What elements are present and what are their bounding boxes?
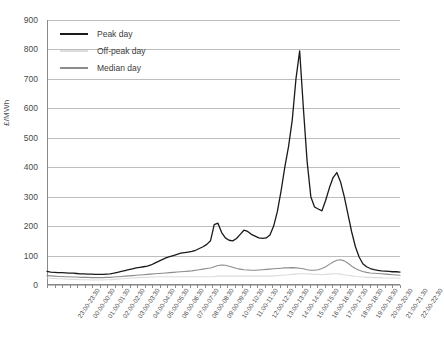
legend-label: Off-peak day xyxy=(97,46,146,56)
y-tick-700: 700 xyxy=(4,75,38,84)
y-tick-900: 900 xyxy=(4,16,38,25)
y-tick-400: 400 xyxy=(4,163,38,172)
legend-swatch-icon xyxy=(60,33,88,35)
x-axis-tick-labels: 23:00-23:3000:00-00:3001:00-01:3002:00-0… xyxy=(47,287,400,343)
legend-item-median-day[interactable]: Median day xyxy=(60,59,146,76)
legend-swatch-icon xyxy=(60,50,88,52)
y-tick-300: 300 xyxy=(4,193,38,202)
legend-swatch-icon xyxy=(60,67,88,69)
y-tick-500: 500 xyxy=(4,134,38,143)
y-tick-100: 100 xyxy=(4,252,38,261)
legend-item-off-peak-day[interactable]: Off-peak day xyxy=(60,42,146,59)
legend-item-peak-day[interactable]: Peak day xyxy=(60,25,146,42)
y-tick-600: 600 xyxy=(4,104,38,113)
chart-legend: Peak dayOff-peak dayMedian day xyxy=(60,25,146,76)
y-tick-0: 0 xyxy=(4,281,38,290)
y-tick-800: 800 xyxy=(4,45,38,54)
series-line-peak-day xyxy=(47,51,400,274)
x-tick xyxy=(400,285,401,288)
legend-label: Peak day xyxy=(97,29,132,39)
legend-label: Median day xyxy=(97,63,141,73)
y-tick-200: 200 xyxy=(4,222,38,231)
